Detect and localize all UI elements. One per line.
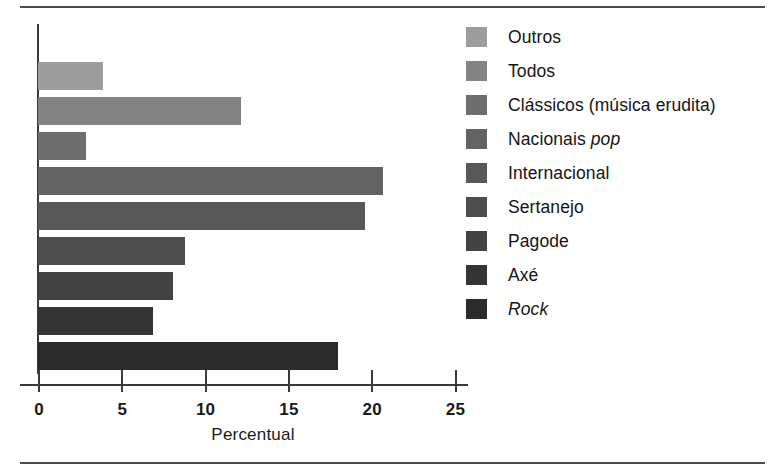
bottom-rule xyxy=(20,462,765,464)
figure-bar-chart: 0510152025 Percentual OutrosTodosClássic… xyxy=(0,0,781,471)
value-axis-line xyxy=(20,384,468,386)
legend-label: Clássicos (música erudita) xyxy=(508,95,716,116)
legend-item: Pagode xyxy=(466,224,766,258)
legend-swatch xyxy=(466,95,487,115)
legend-label: Axé xyxy=(508,265,538,286)
legend-label: Sertanejo xyxy=(508,197,584,218)
x-tick-label: 5 xyxy=(117,400,127,420)
legend-item: Internacional xyxy=(466,156,766,190)
legend-swatch xyxy=(466,231,487,251)
bar xyxy=(38,342,338,370)
bar xyxy=(38,97,241,125)
bar xyxy=(38,132,86,160)
legend-label: Rock xyxy=(508,299,548,320)
chart-legend: OutrosTodosClássicos (música erudita)Nac… xyxy=(466,20,766,326)
bar xyxy=(38,307,153,335)
legend-label: Outros xyxy=(508,27,561,48)
legend-swatch xyxy=(466,265,487,285)
legend-item: Rock xyxy=(466,292,766,326)
legend-swatch xyxy=(466,163,487,183)
legend-label: Todos xyxy=(508,61,555,82)
legend-item: Outros xyxy=(466,20,766,54)
plot-area: 0510152025 xyxy=(0,18,470,383)
bar xyxy=(38,272,173,300)
bar-fill xyxy=(38,132,86,160)
bar xyxy=(38,202,365,230)
tick-mark xyxy=(205,370,207,392)
legend-item: Clássicos (música erudita) xyxy=(466,88,766,122)
x-tick-label: 10 xyxy=(196,400,215,420)
bar-fill xyxy=(38,272,173,300)
x-tick-label: 25 xyxy=(446,400,465,420)
x-tick-label: 15 xyxy=(279,400,298,420)
bar-fill xyxy=(38,342,338,370)
legend-label: Pagode xyxy=(508,231,569,252)
tick-mark xyxy=(371,370,373,392)
legend-label: Internacional xyxy=(508,163,610,184)
legend-item: Nacionais pop xyxy=(466,122,766,156)
legend-item: Sertanejo xyxy=(466,190,766,224)
tick-mark xyxy=(121,370,123,392)
bar-fill xyxy=(38,97,241,125)
bar-fill xyxy=(38,167,383,195)
legend-swatch xyxy=(466,197,487,217)
legend-swatch xyxy=(466,61,487,81)
tick-mark xyxy=(455,370,457,392)
legend-swatch xyxy=(466,299,487,319)
bar-fill xyxy=(38,202,365,230)
x-axis-title: Percentual xyxy=(38,425,468,445)
legend-swatch xyxy=(466,27,487,47)
x-tick-label: 20 xyxy=(363,400,382,420)
tick-mark xyxy=(288,370,290,392)
legend-label: Nacionais pop xyxy=(508,129,620,150)
legend-swatch xyxy=(466,129,487,149)
bar xyxy=(38,62,103,90)
tick-mark xyxy=(38,370,40,392)
bar-fill xyxy=(38,62,103,90)
bar-fill xyxy=(38,307,153,335)
bar xyxy=(38,167,383,195)
top-rule xyxy=(20,6,765,8)
bar-fill xyxy=(38,237,185,265)
bar xyxy=(38,237,185,265)
legend-item: Todos xyxy=(466,54,766,88)
legend-item: Axé xyxy=(466,258,766,292)
x-tick-label: 0 xyxy=(34,400,44,420)
